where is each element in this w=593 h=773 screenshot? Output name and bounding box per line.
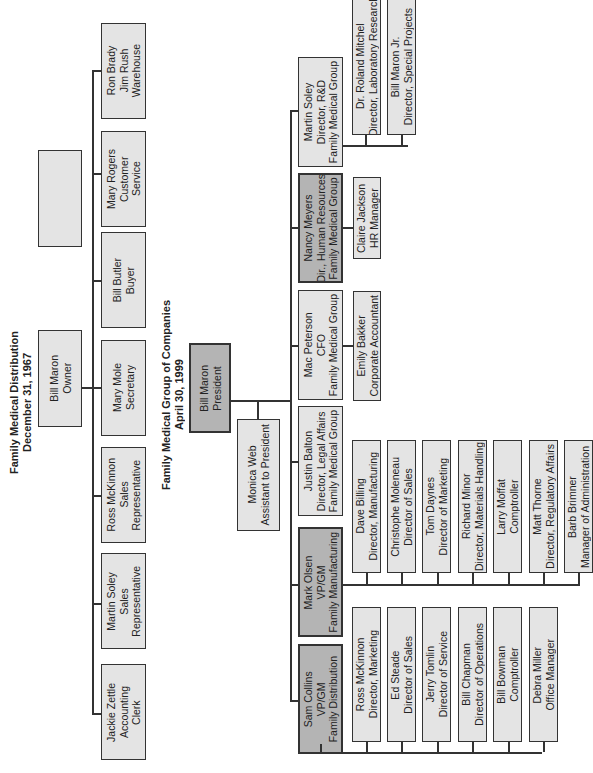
box-label: Mary Mole Secretary [111,363,136,412]
org-box-martin-soley-rd: Martin Soley Director, R&D Family Medica… [298,57,343,167]
box-label: Nancy Meyers Dir., Human Resources Famil… [302,174,340,283]
connector [543,742,545,752]
connector [257,400,259,419]
box-label: Monica Web Assistant to President [246,424,271,526]
box-label: Richard Minor Director, Materials Handli… [460,442,485,571]
connector [320,744,322,753]
org-box-bill-maron-owner: Bill Maron Owner [38,330,82,427]
box-label: Mary Rogers Customer Service [105,149,143,209]
box-label: Matt Thorne Director, Regulatory Affairs [531,444,556,569]
box-label: Justin Balton Director, Legal Affairs Fa… [302,410,340,512]
org-box-claire-jackson: Claire Jackson HR Manager [353,177,381,259]
connector [92,713,101,715]
org-box-dave-billing: Dave Billing Director, Manufacturing [352,440,381,573]
connector [290,227,298,229]
box-label: Bill Maron Owner [48,355,73,402]
box-label: Jackie Zettle Accounting Clerk [105,683,143,742]
box-label: Debra Miller Office Manager [531,639,556,711]
org-box-ed-steade: Ed Steade Director of Sales [387,607,416,742]
connector [343,227,353,229]
box-label: Ross McKinnon Director, Marketing [354,630,379,718]
box-label: Jerry Tomlin Director of Service [424,631,449,717]
org-box-richard-minor: Richard Minor Director, Materials Handli… [458,440,487,573]
org-box-mac-peterson: Mac Peterson CFO Family Medical Group [298,290,343,400]
org-box-bill-maron-jr: Bill Maron Jr. Director, Special Project… [387,0,416,135]
connector [578,573,580,584]
box-label: Bill Butler Buyer [111,258,136,302]
org-box-jackie-zettle: Jackie Zettle Accounting Clerk [101,664,146,760]
org-box-justin-balton: Justin Balton Director, Legal Affairs Fa… [298,406,343,516]
org-box-bill-bowman: Bill Bowman Comptroller [493,607,522,742]
box-label: Ron Brady Jim Rush Warehouse [105,44,143,97]
connector [92,495,101,497]
box-label: Mac Peterson CFO Family Medical Group [302,294,340,396]
connector [92,173,101,175]
org-box-bill-butler: Bill Butler Buyer [101,232,146,328]
box-label: Bill Maron Jr. Director, Special Project… [389,8,414,125]
org-box-mary-rogers: Mary Rogers Customer Service [101,131,146,227]
connector [231,400,290,402]
box-label: Mark Olsen VP/GM Family Manufacturing [302,532,340,632]
connector [401,135,403,145]
chart-1999-title: Family Medical Group of Companies April … [160,295,185,495]
org-box-larry-moffat: Larry Moffat Comptroller [493,440,522,573]
connector [92,280,101,282]
connector [437,742,439,752]
connector [343,345,353,347]
connector [401,573,403,584]
org-box-sam-collins: Sam Collins VP/GM Family Distribution [298,644,343,754]
connector [508,742,510,752]
box-label: Christophe Moleneau Director of Sales [389,457,414,557]
box-label: Tom Daynes Director of Marketing [424,458,449,555]
org-box-jerry-tomlin: Jerry Tomlin Director of Service [422,607,451,742]
org-box-emily-bakker: Emily Bakker Corporate Accountant [353,291,381,401]
connector [290,584,298,586]
org-box-christophe-moleneau: Christophe Moleneau Director of Sales [387,440,416,573]
connector [320,752,542,754]
org-box-bill-maron-president: Bill Maron President [189,343,231,433]
connector [508,573,510,584]
org-box-ross-mckinnon-1999: Ross McKinnon Director, Marketing [352,607,381,742]
box-label: Claire Jackson HR Manager [355,184,380,253]
box-label: Ed Steade Director of Sales [389,636,414,714]
connector [290,345,298,347]
connector [366,573,368,584]
connector [290,110,292,700]
org-box-bill-chapman: Bill Chapman Director of Operations [458,607,487,742]
org-box-martin-soley-1967: Martin Soley Sales Representative [101,553,146,649]
connector [92,603,101,605]
box-label: Bill Chapman Director of Operations [460,623,485,726]
box-label: Sam Collins VP/GM Family Distribution [302,656,340,742]
org-box-monica-web: Monica Web Assistant to President [237,419,280,531]
connector [472,573,474,584]
org-box-mark-olsen: Mark Olsen VP/GM Family Manufacturing [298,527,343,637]
box-label: Ross McKinnon Sales Representative [105,458,143,532]
box-label: Dave Billing Director, Manufacturing [354,452,379,561]
org-box-ron-brady: Ron Brady Jim Rush Warehouse [101,23,146,119]
connector [366,742,368,752]
connector [343,584,580,586]
connector [290,110,298,112]
box-label: Bill Maron President [198,365,223,412]
connector [437,573,439,584]
box-label: Larry Moffat Comptroller [495,479,520,535]
box-label: Barb Brimner Manager of Administration [566,446,591,568]
box-label: Martin Soley Sales Representative [105,566,143,637]
chart-1967-title: Family Medical Distribution December 31,… [8,330,33,475]
box-label: Dr. Roland Mitchel Director, Laboratory … [354,0,379,135]
connector [343,145,408,147]
org-box-roland-mitchel: Dr. Roland Mitchel Director, Laboratory … [352,0,381,135]
box-label: Emily Bakker Corporate Accountant [355,295,380,397]
connector [401,742,403,752]
connector [543,573,545,584]
connector [472,742,474,752]
org-box-nancy-meyers: Nancy Meyers Dir., Human Resources Famil… [298,173,343,283]
org-box-mary-mole: Mary Mole Secretary [101,340,146,436]
org-box-owner [38,150,82,247]
connector [365,135,367,145]
org-box-debra-miller: Debra Miller Office Manager [529,607,558,742]
connector [92,387,101,389]
connector [290,461,298,463]
connector [92,70,94,714]
org-box-barb-brimner: Barb Brimner Manager of Administration [564,440,593,573]
